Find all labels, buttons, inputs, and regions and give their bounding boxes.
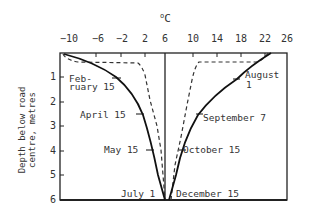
svg-text:6: 6 (50, 194, 56, 205)
svg-text:22: 22 (259, 33, 271, 44)
annotation-october-15: October 15 (183, 144, 240, 155)
svg-text:2: 2 (50, 96, 56, 107)
annotation-july-1: July 1 (121, 188, 156, 199)
chart: oC −10 −6 −2 2 6 10 14 18 22 26 123 456 … (0, 0, 309, 216)
svg-text:1: 1 (246, 79, 252, 90)
svg-text:2: 2 (142, 33, 148, 44)
svg-text:ruary 15: ruary 15 (69, 81, 115, 92)
svg-text:4: 4 (50, 145, 56, 156)
x-tick-labels: −10 −6 −2 2 6 10 14 18 22 26 (60, 33, 293, 44)
x-unit-label: oC (160, 12, 171, 25)
svg-text:3: 3 (50, 120, 56, 131)
svg-text:18: 18 (235, 33, 247, 44)
svg-text:14: 14 (211, 33, 223, 44)
svg-text:5: 5 (50, 169, 56, 180)
y-axis-label: Depth below road centre, metres (17, 87, 37, 174)
svg-text:10: 10 (187, 33, 199, 44)
annotation-april-15: April 15 (80, 109, 126, 120)
svg-text:1: 1 (50, 71, 56, 82)
y-tick-labels: 123 456 (50, 71, 56, 205)
svg-text:centre, metres: centre, metres (27, 92, 37, 168)
annotation-december-15: December 15 (176, 188, 239, 199)
annotation-september-7: September 7 (203, 112, 266, 123)
svg-text:−2: −2 (116, 33, 128, 44)
svg-text:6: 6 (162, 33, 168, 44)
svg-text:−10: −10 (60, 33, 78, 44)
svg-text:26: 26 (281, 33, 293, 44)
svg-text:−6: −6 (92, 33, 104, 44)
annotation-may-15: May 15 (104, 144, 138, 155)
svg-text:Depth below road: Depth below road (17, 87, 27, 174)
